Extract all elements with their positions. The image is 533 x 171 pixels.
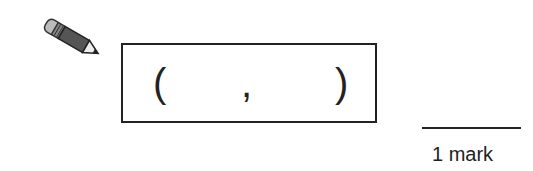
coordinate-separator: , <box>241 59 252 107</box>
answer-box[interactable]: ( , ) <box>121 43 377 123</box>
open-paren: ( <box>153 59 166 107</box>
pencil-icon <box>36 18 110 60</box>
close-paren: ) <box>335 59 348 107</box>
mark-label: 1 mark <box>432 143 493 166</box>
mark-line <box>422 127 521 129</box>
